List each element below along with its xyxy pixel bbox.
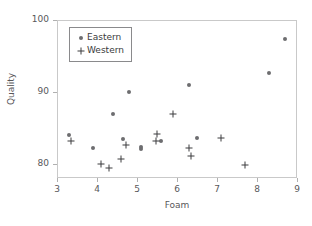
circle-marker-icon <box>67 133 71 137</box>
y-tick-mark <box>53 92 57 93</box>
x-tick-mark <box>257 178 258 182</box>
y-tick-label: 100 <box>21 14 49 25</box>
plus-marker-icon <box>218 134 225 141</box>
x-axis-label: Foam <box>57 200 297 210</box>
x-tick-label: 6 <box>165 184 189 195</box>
y-axis-label: Quality <box>6 59 16 119</box>
legend-item-eastern: Eastern <box>75 31 124 44</box>
circle-marker-icon <box>267 71 271 75</box>
circle-marker-icon <box>127 90 131 94</box>
circle-marker-icon <box>75 32 87 43</box>
plus-marker-icon <box>154 131 161 138</box>
scatter-plot-figure: 3456789 8090100 Foam Quality Eastern Wes… <box>0 0 312 226</box>
circle-marker-icon <box>111 112 115 116</box>
circle-marker-icon <box>283 37 287 41</box>
legend-item-western: Western <box>75 44 124 57</box>
legend-label-western: Western <box>87 45 124 56</box>
x-tick-label: 9 <box>285 184 309 195</box>
plus-marker-icon <box>75 45 87 56</box>
plus-marker-icon <box>122 141 129 148</box>
x-tick-label: 8 <box>245 184 269 195</box>
plus-marker-icon <box>98 160 105 167</box>
legend: Eastern Western <box>69 27 132 62</box>
x-tick-label: 3 <box>45 184 69 195</box>
plus-marker-icon <box>106 164 113 171</box>
y-tick-mark <box>53 164 57 165</box>
legend-label-eastern: Eastern <box>87 32 121 43</box>
plus-marker-icon <box>188 153 195 160</box>
plus-marker-icon <box>153 138 160 145</box>
plus-marker-icon <box>242 162 249 169</box>
y-tick-label: 80 <box>21 158 49 169</box>
circle-marker-icon <box>195 136 199 140</box>
x-tick-mark <box>177 178 178 182</box>
plus-marker-icon <box>170 111 177 118</box>
x-tick-label: 5 <box>125 184 149 195</box>
x-tick-mark <box>137 178 138 182</box>
y-tick-mark <box>53 20 57 21</box>
circle-marker-icon <box>139 147 143 151</box>
y-tick-label: 90 <box>21 86 49 97</box>
x-tick-mark <box>297 178 298 182</box>
plus-marker-icon <box>68 138 75 145</box>
plus-marker-icon <box>118 156 125 163</box>
circle-marker-icon <box>187 83 191 87</box>
x-tick-mark <box>217 178 218 182</box>
circle-marker-icon <box>91 146 95 150</box>
x-tick-label: 7 <box>205 184 229 195</box>
x-tick-label: 4 <box>85 184 109 195</box>
x-tick-mark <box>97 178 98 182</box>
x-tick-mark <box>57 178 58 182</box>
plus-marker-icon <box>186 144 193 151</box>
